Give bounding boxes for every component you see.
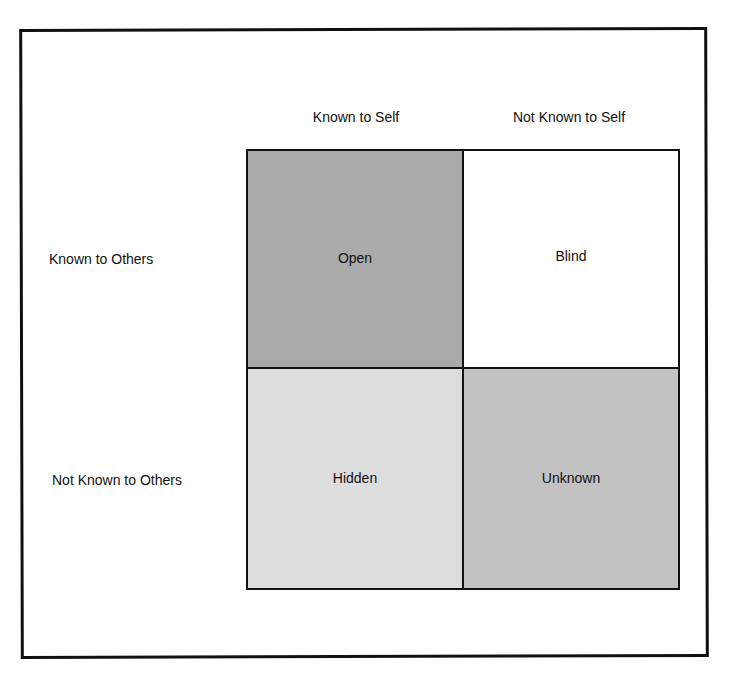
row-header-not-known-to-others: Not Known to Others [52, 472, 182, 488]
quadrant-hidden: Hidden [248, 369, 464, 588]
quadrant-open-label: Open [248, 250, 462, 266]
row-header-known-to-others: Known to Others [49, 251, 153, 267]
column-header-known-to-self: Known to Self [313, 109, 399, 125]
quadrant-hidden-label: Hidden [248, 470, 462, 486]
quadrant-blind-label: Blind [464, 248, 678, 264]
quadrant-unknown: Unknown [464, 369, 678, 588]
column-header-not-known-to-self: Not Known to Self [513, 109, 625, 125]
quadrant-blind: Blind [464, 151, 678, 369]
quadrant-open: Open [248, 151, 464, 369]
johari-window-grid: Open Blind Hidden Unknown [246, 149, 680, 590]
quadrant-unknown-label: Unknown [464, 470, 678, 486]
